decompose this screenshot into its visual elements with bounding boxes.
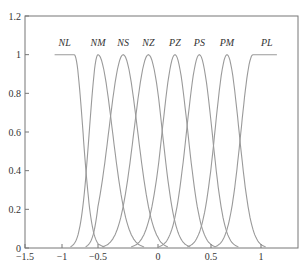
mf-label-ps: PS bbox=[193, 37, 205, 48]
mf-curve-ps bbox=[159, 55, 239, 247]
x-tick-label: 0.5 bbox=[205, 251, 218, 262]
mf-labels: NLNMNSNZPZPSPMPL bbox=[57, 37, 273, 48]
mf-curve-pl bbox=[215, 55, 277, 247]
plot-frame bbox=[25, 16, 298, 248]
curves-group bbox=[55, 55, 277, 247]
x-tick-label: −1 bbox=[57, 251, 68, 262]
mf-label-pm: PM bbox=[219, 37, 235, 48]
y-tick-label: 0.8 bbox=[9, 88, 22, 99]
y-tick-label: 1.2 bbox=[9, 11, 22, 22]
y-axis: 00.20.40.60.811.2 bbox=[9, 11, 30, 254]
mf-curve-nm bbox=[70, 55, 144, 247]
x-axis: −1.5−1−0.500.51 bbox=[16, 244, 264, 262]
x-tick-label: 1 bbox=[259, 251, 264, 262]
x-tick-label: 0 bbox=[156, 251, 161, 262]
mf-label-nm: NM bbox=[90, 37, 107, 48]
mf-label-pl: PL bbox=[260, 37, 273, 48]
mf-label-nl: NL bbox=[57, 37, 71, 48]
y-tick-label: 0.6 bbox=[9, 127, 22, 138]
mf-label-nz: NZ bbox=[141, 37, 155, 48]
mf-label-ns: NS bbox=[116, 37, 129, 48]
membership-function-chart: −1.5−1−0.500.51 00.20.40.60.811.2 NLNMNS… bbox=[0, 0, 307, 274]
mf-curve-ns bbox=[86, 55, 169, 247]
x-tick-label: −0.5 bbox=[89, 251, 107, 262]
mf-curve-nl bbox=[55, 55, 105, 247]
y-tick-label: 0 bbox=[16, 243, 21, 254]
mf-curve-pz bbox=[131, 55, 215, 247]
y-tick-label: 0.4 bbox=[9, 165, 22, 176]
y-tick-label: 0.2 bbox=[9, 204, 22, 215]
mf-label-pz: PZ bbox=[168, 37, 181, 48]
y-tick-label: 1 bbox=[16, 49, 21, 60]
